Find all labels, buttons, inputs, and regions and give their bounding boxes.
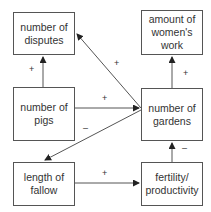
node-label: amount of women's work <box>144 13 200 52</box>
sign-fallow-fertility: + <box>102 169 107 178</box>
sign-gardens-disputes: + <box>114 59 119 68</box>
sign-fertility-gardens: – <box>182 144 187 153</box>
node-label: fertility/ productivity <box>144 171 200 197</box>
node-number-of-disputes: number of disputes <box>13 12 75 55</box>
sign-pigs-gardens: + <box>102 94 107 103</box>
node-number-of-gardens: number of gardens <box>141 88 203 141</box>
node-number-of-pigs: number of pigs <box>13 87 75 141</box>
edge-gardens-to-disputes <box>77 34 141 108</box>
node-label: length of fallow <box>16 171 72 197</box>
node-length-of-fallow: length of fallow <box>13 162 75 206</box>
node-fertility-productivity: fertility/ productivity <box>141 162 203 206</box>
node-label: number of pigs <box>16 101 72 127</box>
sign-gardens-fallow: – <box>83 124 88 133</box>
node-amount-of-womens-work: amount of women's work <box>141 10 203 55</box>
node-label: number of disputes <box>16 21 72 47</box>
node-label: number of gardens <box>144 102 200 128</box>
sign-gardens-womens-work: + <box>183 69 188 78</box>
sign-pigs-disputes: + <box>29 65 34 74</box>
